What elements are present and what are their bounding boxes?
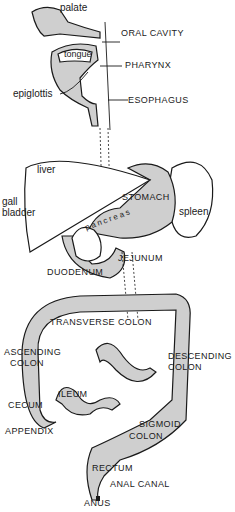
label-pharynx: PHARYNX [125,61,171,70]
label-oral-cavity: ORAL CAVITY [121,29,184,38]
label-appendix: APPENDIX [5,427,54,436]
label-transverse-colon: TRANSVERSE COLON [50,318,152,327]
pancreas-head-shape [72,227,101,261]
label-ascending: ASCENDING [4,348,61,357]
label-descending-colon: COLON [168,363,202,372]
label-jejunum: JEJUNUM [118,254,163,263]
label-esophagus: ESOPHAGUS [128,96,189,105]
label-sigmoid-colon: COLON [129,432,163,441]
label-bladder: bladder [2,208,35,218]
small-intestine-loop-upper [96,343,156,381]
label-spleen: spleen [179,207,208,217]
label-rectum: RECTUM [92,464,133,473]
label-stomach: STOMACH [122,193,170,202]
label-anal-canal: ANAL CANAL [110,480,170,489]
label-cecum: CECUM [8,401,43,410]
label-gall: gall [2,197,18,207]
label-epiglottis: epiglottis [13,89,52,99]
label-descending: DESCENDING [168,352,232,361]
label-sigmoid: SIGMOID [139,420,181,429]
label-ascending-colon: COLON [10,359,44,368]
label-duodenum: DUODENUM [47,268,103,277]
label-ileum: ILEUM [58,390,88,399]
label-liver: liver [37,165,55,175]
head-section [32,7,128,130]
label-palate: palate [60,3,87,13]
label-anus: ANUS [84,499,111,508]
label-tongue: tongue [64,50,92,59]
